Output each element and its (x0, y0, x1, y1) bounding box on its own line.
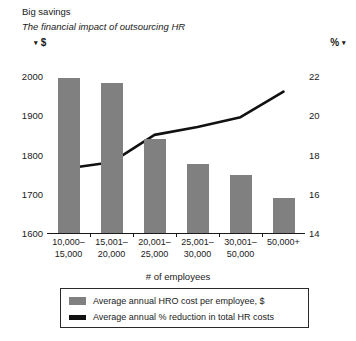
right-axis-ticks: 1416182022 (309, 0, 353, 341)
bar-hro-cost (187, 164, 209, 233)
left-axis-tick-label: 1800 (22, 149, 43, 160)
right-axis-tick-label: 20 (309, 110, 320, 121)
legend-item-hro-cost: Average annual HRO cost per employee, $ (69, 293, 308, 309)
legend-item-label: Average annual HRO cost per employee, $ (93, 296, 264, 306)
x-axis-category-label: 50,000+ (258, 237, 309, 249)
right-axis-tick-label: 14 (309, 228, 320, 239)
legend-item-percent-reduction: Average annual % reduction in total HR c… (69, 309, 308, 325)
x-axis-title: # of employees (0, 271, 356, 282)
left-axis-tick-label: 1600 (22, 228, 43, 239)
legend-line-swatch-icon (69, 315, 86, 320)
chart-legend: Average annual HRO cost per employee, $ … (60, 288, 309, 328)
legend-bar-swatch-icon (69, 297, 86, 305)
bar-hro-cost (273, 198, 295, 233)
bar-hro-cost (58, 78, 80, 233)
chart-container: Big savings The financial impact of outs… (0, 0, 356, 341)
left-axis-ticks: 16001700180019002000 (0, 0, 43, 341)
line-series-percent-reduction (47, 76, 305, 233)
chart-subtitle: The financial impact of outsourcing HR (22, 21, 185, 32)
left-axis-tick-label: 2000 (22, 71, 43, 82)
plot-area (47, 76, 305, 233)
left-axis-tick-label: 1900 (22, 110, 43, 121)
right-axis-tick-label: 16 (309, 188, 320, 199)
left-axis-tick-label: 1700 (22, 188, 43, 199)
bar-hro-cost (230, 175, 252, 233)
bar-hro-cost (144, 139, 166, 233)
legend-item-label: Average annual % reduction in total HR c… (93, 312, 274, 322)
bar-hro-cost (101, 83, 123, 233)
x-axis-category-labels: 10,000– 15,00015,001– 20,00020,001– 25,0… (47, 237, 305, 271)
right-axis-tick-label: 22 (309, 71, 320, 82)
right-axis-tick-label: 18 (309, 149, 320, 160)
